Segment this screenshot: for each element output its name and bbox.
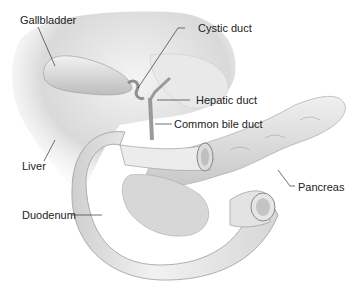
label-hepatic-duct: Hepatic duct bbox=[196, 94, 257, 106]
label-liver: Liver bbox=[22, 160, 46, 172]
label-pancreas: Pancreas bbox=[298, 181, 344, 193]
common-bile-duct-shape bbox=[150, 98, 152, 140]
label-common-bile-duct: Common bile duct bbox=[174, 118, 263, 130]
label-duodenum: Duodenum bbox=[22, 209, 76, 221]
label-gallbladder: Gallbladder bbox=[20, 14, 76, 26]
illustration bbox=[0, 0, 360, 291]
anatomy-diagram: Gallbladder Cystic duct Hepatic duct Com… bbox=[0, 0, 360, 291]
label-cystic-duct: Cystic duct bbox=[198, 22, 252, 34]
